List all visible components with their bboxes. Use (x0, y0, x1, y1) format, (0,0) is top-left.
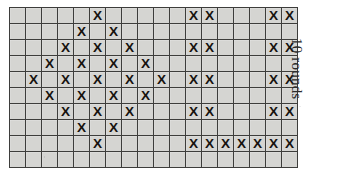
chart-cell-blank[interactable] (234, 152, 250, 168)
chart-cell-marked[interactable]: X (186, 8, 202, 24)
chart-cell-blank[interactable] (26, 8, 42, 24)
chart-cell-blank[interactable] (170, 136, 186, 152)
chart-cell-blank[interactable] (122, 152, 138, 168)
chart-cell-blank[interactable] (74, 136, 90, 152)
chart-cell-marked[interactable]: X (74, 24, 90, 40)
chart-cell-blank[interactable] (266, 56, 282, 72)
chart-cell-blank[interactable] (138, 24, 154, 40)
chart-cell-blank[interactable] (42, 152, 58, 168)
chart-cell-marked[interactable]: X (106, 56, 122, 72)
chart-cell-blank[interactable] (218, 56, 234, 72)
chart-cell-blank[interactable] (170, 88, 186, 104)
chart-cell-marked[interactable]: X (42, 56, 58, 72)
chart-cell-blank[interactable] (58, 152, 74, 168)
chart-cell-blank[interactable] (218, 72, 234, 88)
chart-cell-blank[interactable] (154, 24, 170, 40)
chart-cell-blank[interactable] (234, 88, 250, 104)
chart-cell-blank[interactable] (170, 24, 186, 40)
chart-cell-marked[interactable]: X (282, 8, 298, 24)
chart-cell-marked[interactable]: X (218, 136, 234, 152)
chart-cell-blank[interactable] (106, 104, 122, 120)
chart-cell-blank[interactable] (106, 72, 122, 88)
chart-cell-blank[interactable] (10, 104, 26, 120)
chart-cell-blank[interactable] (58, 136, 74, 152)
chart-cell-blank[interactable] (266, 88, 282, 104)
chart-cell-blank[interactable] (106, 40, 122, 56)
chart-cell-blank[interactable] (186, 56, 202, 72)
chart-cell-marked[interactable]: X (266, 136, 282, 152)
chart-cell-blank[interactable] (266, 120, 282, 136)
chart-cell-blank[interactable] (250, 56, 266, 72)
chart-cell-marked[interactable]: X (90, 104, 106, 120)
chart-cell-blank[interactable] (170, 40, 186, 56)
chart-cell-blank[interactable] (10, 72, 26, 88)
chart-cell-marked[interactable]: X (186, 72, 202, 88)
chart-cell-blank[interactable] (138, 120, 154, 136)
chart-cell-marked[interactable]: X (202, 40, 218, 56)
chart-cell-marked[interactable]: X (106, 88, 122, 104)
chart-cell-marked[interactable]: X (202, 8, 218, 24)
chart-cell-blank[interactable] (218, 120, 234, 136)
chart-cell-blank[interactable] (74, 8, 90, 24)
chart-cell-blank[interactable] (90, 56, 106, 72)
chart-cell-blank[interactable] (218, 8, 234, 24)
chart-cell-blank[interactable] (106, 8, 122, 24)
chart-cell-marked[interactable]: X (266, 8, 282, 24)
chart-cell-blank[interactable] (58, 8, 74, 24)
chart-cell-blank[interactable] (266, 152, 282, 168)
chart-cell-marked[interactable]: X (90, 40, 106, 56)
chart-cell-blank[interactable] (26, 88, 42, 104)
chart-cell-blank[interactable] (90, 152, 106, 168)
chart-cell-marked[interactable]: X (154, 72, 170, 88)
chart-cell-blank[interactable] (202, 88, 218, 104)
chart-cell-blank[interactable] (154, 104, 170, 120)
chart-cell-blank[interactable] (122, 88, 138, 104)
chart-cell-blank[interactable] (10, 152, 26, 168)
chart-cell-blank[interactable] (170, 152, 186, 168)
chart-cell-marked[interactable]: X (202, 104, 218, 120)
chart-cell-blank[interactable] (10, 24, 26, 40)
chart-cell-blank[interactable] (218, 88, 234, 104)
chart-cell-blank[interactable] (266, 24, 282, 40)
chart-cell-marked[interactable]: X (234, 136, 250, 152)
chart-cell-blank[interactable] (170, 56, 186, 72)
chart-cell-blank[interactable] (42, 8, 58, 24)
chart-cell-blank[interactable] (234, 104, 250, 120)
chart-cell-blank[interactable] (10, 8, 26, 24)
chart-cell-blank[interactable] (202, 56, 218, 72)
chart-cell-blank[interactable] (138, 72, 154, 88)
chart-cell-blank[interactable] (26, 40, 42, 56)
chart-cell-blank[interactable] (106, 136, 122, 152)
chart-cell-blank[interactable] (10, 56, 26, 72)
chart-cell-blank[interactable] (26, 152, 42, 168)
chart-cell-blank[interactable] (154, 56, 170, 72)
chart-cell-blank[interactable] (74, 104, 90, 120)
chart-cell-blank[interactable] (42, 40, 58, 56)
chart-cell-blank[interactable] (154, 152, 170, 168)
chart-cell-marked[interactable]: X (58, 40, 74, 56)
chart-cell-blank[interactable] (250, 8, 266, 24)
chart-cell-marked[interactable]: X (58, 72, 74, 88)
chart-cell-blank[interactable] (154, 88, 170, 104)
chart-cell-marked[interactable]: X (202, 72, 218, 88)
chart-cell-blank[interactable] (10, 88, 26, 104)
chart-cell-blank[interactable] (250, 88, 266, 104)
chart-cell-blank[interactable] (234, 8, 250, 24)
chart-cell-blank[interactable] (234, 120, 250, 136)
chart-cell-blank[interactable] (218, 24, 234, 40)
chart-cell-marked[interactable]: X (266, 40, 282, 56)
chart-cell-blank[interactable] (58, 120, 74, 136)
chart-cell-marked[interactable]: X (74, 56, 90, 72)
chart-cell-blank[interactable] (10, 40, 26, 56)
chart-cell-blank[interactable] (122, 8, 138, 24)
chart-cell-marked[interactable]: X (186, 104, 202, 120)
chart-cell-blank[interactable] (90, 120, 106, 136)
chart-cell-marked[interactable]: X (186, 136, 202, 152)
chart-cell-blank[interactable] (90, 88, 106, 104)
chart-cell-blank[interactable] (202, 24, 218, 40)
chart-cell-blank[interactable] (170, 72, 186, 88)
chart-cell-marked[interactable]: X (202, 136, 218, 152)
chart-cell-blank[interactable] (234, 56, 250, 72)
chart-cell-blank[interactable] (42, 136, 58, 152)
chart-cell-blank[interactable] (170, 120, 186, 136)
